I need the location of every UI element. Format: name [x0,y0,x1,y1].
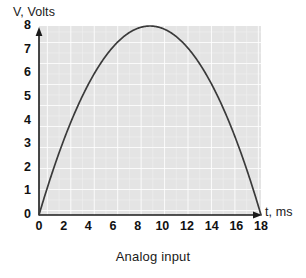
y-tick-label: 5 [11,89,31,103]
y-tick-label: 6 [11,65,31,79]
y-tick-label: 1 [11,183,31,197]
x-tick-label: 6 [100,219,126,233]
x-tick-label: 4 [75,219,101,233]
figure-caption: Analog input [0,249,306,264]
x-tick-label: 16 [223,219,249,233]
x-tick-label: 12 [174,219,200,233]
y-tick-label: 2 [11,160,31,174]
chart-figure: V, Volts t, ms 012345678 024681012141618… [0,0,306,278]
x-tick-label: 10 [149,219,175,233]
y-tick-label: 8 [11,18,31,32]
y-tick-label: 7 [11,42,31,56]
x-tick-label: 18 [248,219,274,233]
x-tick-label: 0 [26,219,52,233]
y-tick-label: 3 [11,136,31,150]
y-tick-label: 4 [11,113,31,127]
x-tick-label: 8 [125,219,151,233]
x-tick-label: 2 [51,219,77,233]
plot-area [0,0,306,278]
x-tick-label: 14 [199,219,225,233]
